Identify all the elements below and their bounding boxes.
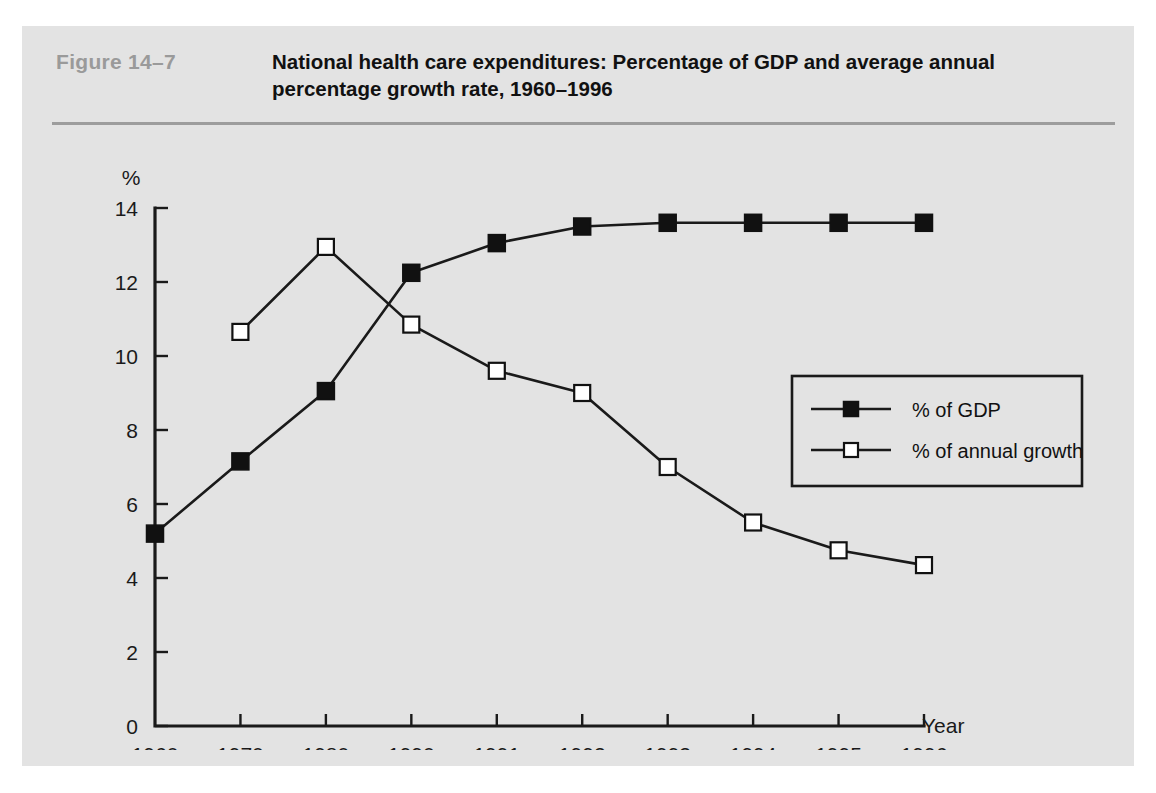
data-point-marker <box>574 218 591 235</box>
y-axis-tick-label: 2 <box>126 641 138 664</box>
legend-item-label: % of annual growth <box>912 440 1083 462</box>
x-axis-tick-label: 1995 <box>815 743 862 750</box>
y-axis-tick-label: 0 <box>126 715 138 738</box>
data-point-marker <box>232 324 248 340</box>
chart-series-group <box>147 214 933 573</box>
data-point-marker <box>831 542 847 558</box>
y-axis-tick-label: 8 <box>126 419 138 442</box>
x-axis-tick-labels: 1960197019801990199119921993199419951996 <box>132 743 948 750</box>
data-point-marker <box>745 214 762 231</box>
legend-marker-filled-square <box>844 402 859 417</box>
y-axis-tick-label: 12 <box>115 271 138 294</box>
line-chart: 02468101214 1960197019801990199119921993… <box>22 130 1134 750</box>
axis-lines <box>155 208 924 726</box>
y-axis-tick-label: 14 <box>115 197 139 220</box>
data-point-marker <box>574 385 590 401</box>
data-point-marker <box>489 363 505 379</box>
chart-axes <box>155 208 924 726</box>
page-title: National health care expenditures: Perce… <box>272 48 1102 103</box>
x-axis-tick-label: 1992 <box>559 743 606 750</box>
data-point-marker <box>916 557 932 573</box>
x-axis-tick-label: 1996 <box>901 743 948 750</box>
data-point-marker <box>403 264 420 281</box>
data-point-marker <box>147 525 164 542</box>
x-axis-tick-label: 1991 <box>473 743 520 750</box>
data-point-marker <box>660 459 676 475</box>
figure-number-label: Figure 14–7 <box>56 50 176 74</box>
data-point-marker <box>916 214 933 231</box>
data-point-marker <box>403 317 419 333</box>
x-axis-tick-label: 1990 <box>388 743 435 750</box>
y-axis-label: % <box>122 166 141 189</box>
data-point-marker <box>745 515 761 531</box>
chart-legend: % of GDP% of annual growth <box>792 376 1083 486</box>
y-axis-tick-label: 10 <box>115 345 138 368</box>
legend-marker-open-square <box>844 443 858 457</box>
title-divider <box>52 122 1115 125</box>
x-axis-tick-label: 1980 <box>303 743 350 750</box>
data-point-marker <box>232 453 249 470</box>
y-axis-tick-label: 4 <box>126 567 138 590</box>
data-point-marker <box>488 235 505 252</box>
legend-item-label: % of GDP <box>912 399 1001 421</box>
figure-title-line-1: National health care expenditures: Perce… <box>272 48 1102 75</box>
series-line-2 <box>240 247 924 565</box>
data-point-marker <box>317 383 334 400</box>
chart-plot-area: 02468101214 1960197019801990199119921993… <box>22 130 1134 750</box>
data-point-marker <box>318 239 334 255</box>
x-axis-tick-label: 1970 <box>217 743 264 750</box>
figure-header: Figure 14–7 National health care expendi… <box>22 26 1134 122</box>
x-axis-tick-label: 1994 <box>730 743 777 750</box>
x-axis-tick-label: 1960 <box>132 743 179 750</box>
y-axis-tick-label: 6 <box>126 493 138 516</box>
y-axis-tick-labels: 02468101214 <box>115 197 139 738</box>
x-axis-label: Year <box>922 714 964 737</box>
x-axis-tick-label: 1993 <box>644 743 691 750</box>
figure-title-line-2: percentage growth rate, 1960–1996 <box>272 75 1102 102</box>
figure-panel: Figure 14–7 National health care expendi… <box>22 26 1134 766</box>
data-point-marker <box>659 214 676 231</box>
data-point-marker <box>830 214 847 231</box>
legend-box <box>792 376 1082 486</box>
